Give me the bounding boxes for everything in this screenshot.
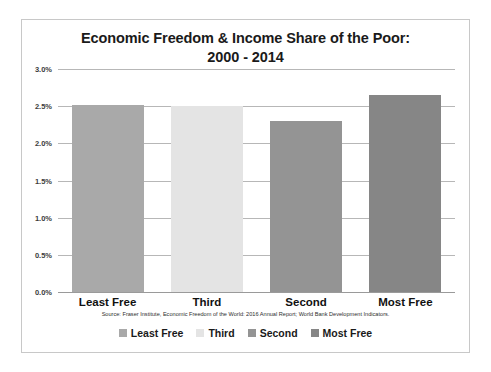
chart-legend: Least FreeThirdSecondMost Free [22, 327, 469, 339]
chart-title-line-2: 2000 - 2014 [22, 48, 469, 67]
bars [58, 69, 455, 292]
chart-title: Economic Freedom & Income Share of the P… [22, 29, 469, 67]
legend-swatch-icon [311, 329, 319, 337]
legend-label: Most Free [323, 327, 373, 339]
source-note: Source: Fraser Institute, Economic Freed… [22, 311, 469, 317]
x-axis-label-least-free: Least Free [79, 296, 137, 308]
legend-swatch-icon [248, 329, 256, 337]
legend-label: Least Free [131, 327, 184, 339]
x-axis-label-second: Second [285, 296, 327, 308]
legend-item-second[interactable]: Second [248, 327, 298, 339]
y-axis-tick-label: 2.0% [35, 139, 52, 148]
legend-item-least-free[interactable]: Least Free [119, 327, 184, 339]
y-axis-tick-label: 0.0% [35, 288, 52, 297]
y-axis-tick-label: 1.5% [35, 176, 52, 185]
legend-label: Third [208, 327, 234, 339]
x-axis-category-labels: Least FreeThirdSecondMost Free [58, 296, 455, 312]
bar-slot [58, 69, 157, 292]
y-axis-tick-label: 3.0% [35, 65, 52, 74]
bar-least-free[interactable] [72, 105, 144, 292]
legend-swatch-icon [196, 329, 204, 337]
bar-third[interactable] [171, 106, 243, 292]
legend-item-most-free[interactable]: Most Free [311, 327, 373, 339]
legend-swatch-icon [119, 329, 127, 337]
plot-area: 0.0%0.5%1.0%1.5%2.0%2.5%3.0% [58, 69, 455, 292]
bar-slot [257, 69, 356, 292]
bar-slot [356, 69, 455, 292]
legend-item-third[interactable]: Third [196, 327, 234, 339]
y-axis-tick-label: 2.5% [35, 102, 52, 111]
y-axis-tick-label: 1.0% [35, 213, 52, 222]
chart-card: Economic Freedom & Income Share of the P… [21, 19, 470, 353]
x-axis-label-most-free: Most Free [378, 296, 432, 308]
y-axis-tick-label: 0.5% [35, 250, 52, 259]
chart-title-line-1: Economic Freedom & Income Share of the P… [81, 30, 410, 46]
axis-baseline: 0.0% [58, 292, 455, 293]
x-axis-label-third: Third [193, 296, 222, 308]
bar-second[interactable] [270, 121, 342, 292]
legend-label: Second [260, 327, 298, 339]
bar-slot [157, 69, 256, 292]
bar-most-free[interactable] [369, 95, 441, 292]
